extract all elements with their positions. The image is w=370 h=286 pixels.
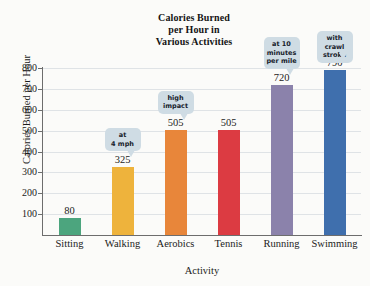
y-axis-tick-label: 700 [7,84,37,94]
bar-value-label: 505 [151,117,201,128]
annotation-line: with crawl [319,34,351,51]
annotation-callout-running: at 10minutesper mile [264,37,300,69]
chart-title: Calories Burned per Hour in Various Acti… [128,12,260,48]
annotation-callout-tail [127,150,135,157]
annotation-callout-aerobics: highimpact [158,91,194,114]
chart-title-line-3: Various Activities [128,36,260,48]
y-axis-tick [38,193,43,194]
x-axis-tick-label: Tennis [199,238,259,250]
chart-title-line-1: Calories Burned [128,12,260,24]
bar-value-label: 720 [257,72,307,83]
annotation-line: at [107,131,139,140]
x-axis-line [42,235,362,236]
bar-walking [112,167,134,235]
y-axis-tick [38,172,43,173]
y-axis-tick-label: 800 [7,63,37,73]
annotation-callout-swimming: with crawlstroke [317,31,353,63]
y-axis-tick [38,152,43,153]
bar-value-label: 80 [45,205,95,216]
y-axis-tick [38,214,43,215]
annotation-line: at 10 [266,40,298,49]
gridline [43,131,361,132]
annotation-line: impact [160,102,192,111]
x-axis-title: Activity [43,265,361,276]
chart-screenshot: Calories Burned per Hour in Various Acti… [0,0,370,286]
bar-swimming [324,70,346,235]
annotation-callout-tail [180,113,188,120]
y-axis-tick-label: 500 [7,126,37,136]
annotation-line: per mile [266,57,298,66]
x-axis-tick-label: Walking [93,238,153,250]
y-axis-tick-label: 400 [7,147,37,157]
x-axis-tick-label: Aerobics [146,238,206,250]
y-axis-tick-label: 200 [7,188,37,198]
gridline [43,89,361,90]
bar-sitting [59,218,81,235]
gridline [43,68,361,69]
y-axis-tick [38,131,43,132]
annotation-line: high [160,94,192,103]
annotation-line: minutes [266,49,298,58]
y-axis-tick [38,68,43,69]
bar-running [271,85,293,235]
y-axis-tick [38,110,43,111]
chart-title-line-2: per Hour in [128,24,260,36]
bar-tennis [218,130,240,235]
x-axis-tick-label: Swimming [305,238,365,250]
x-axis-tick-label: Sitting [40,238,100,250]
y-axis-tick-label: 300 [7,167,37,177]
bar-aerobics [165,130,187,235]
y-axis-tick [38,89,43,90]
y-axis-tick-label: 600 [7,105,37,115]
gridline [43,193,361,194]
annotation-callout-tail [339,53,347,60]
x-axis-tick-label: Running [252,238,312,250]
bar-value-label: 325 [98,154,148,165]
gridline [43,172,361,173]
y-axis-tick-label: 100 [7,209,37,219]
gridline [43,152,361,153]
annotation-callout-tail [286,68,294,75]
bar-value-label: 505 [204,117,254,128]
annotation-callout-walking: at4 mph [105,128,141,151]
annotation-line: 4 mph [107,140,139,149]
gridline [43,110,361,111]
